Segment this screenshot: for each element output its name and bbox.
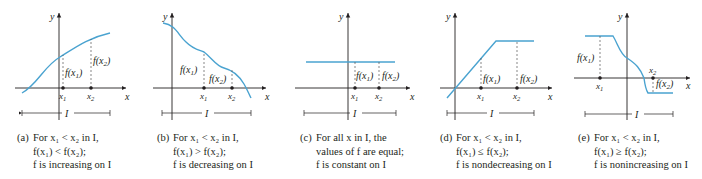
f-x2-label: f(x2) — [209, 73, 227, 86]
x2-label: x2 — [227, 91, 236, 102]
svg-text:I: I — [634, 109, 639, 120]
svg-text:I: I — [352, 108, 357, 119]
nondecreasing-curve — [447, 41, 534, 98]
point-x2 — [230, 86, 234, 90]
point-x1 — [479, 86, 483, 90]
caption-b-line1: For x₁ < x₂ in I, — [173, 132, 239, 143]
caption-c-label: (c) — [300, 131, 316, 145]
caption-c: (c)For all x in I, the values of f are e… — [300, 131, 404, 172]
caption-a-line3: f is increasing on I — [17, 158, 111, 172]
y-axis-label: y — [338, 11, 344, 22]
panel-a-increasing: y x f(x1) f(x2) x1 x2 I — [15, 11, 130, 120]
f-x1-label: f(x1) — [65, 67, 83, 80]
svg-text:I: I — [204, 108, 209, 119]
interval-i: I — [447, 108, 534, 119]
x-axis-label: x — [124, 91, 130, 102]
point-x2 — [515, 86, 519, 90]
y-axis-label: y — [445, 11, 451, 22]
x2-label: x2 — [86, 91, 95, 102]
caption-d: (d)For x₁ < x₂ in I, f(x₁) ≤ f(x₂); f is… — [440, 131, 552, 172]
panel-e-nonincreasing: y x f(x1) f(x2) x1 x2 I — [574, 11, 691, 120]
x1-label: x1 — [350, 91, 358, 102]
point-x2 — [377, 86, 381, 90]
caption-a-line1: For x₁ < x₂ in I, — [33, 132, 99, 143]
caption-e-line3: f is nonincreasing on I — [578, 158, 688, 172]
caption-e-label: (e) — [578, 131, 594, 145]
panel-d-nondecreasing: y x f(x1) f(x2) x1 x2 I — [440, 11, 553, 120]
y-axis-label: y — [617, 11, 623, 22]
y-axis-label: y — [49, 11, 55, 22]
caption-b-label: (b) — [157, 131, 173, 145]
monotonic-functions-figure: y x f(x1) f(x2) x1 x2 I y x f(x1) f(x2) … — [0, 0, 702, 130]
f-x1-label: f(x1) — [180, 64, 198, 77]
caption-e-line1: For x₁ < x₂ in I, — [594, 132, 660, 143]
caption-c-line3: f is constant on I — [300, 158, 404, 172]
caption-d-line1: For x₁ < x₂ in I, — [456, 132, 522, 143]
interval-i: I — [304, 108, 396, 119]
point-x2 — [89, 86, 93, 90]
panel-c-constant: y x f(x1) f(x2) x1 x2 I — [295, 11, 415, 120]
x1-label: x1 — [476, 91, 484, 102]
f-x2-label: f(x2) — [520, 73, 538, 86]
point-x2 — [651, 76, 655, 80]
x-axis-label: x — [409, 91, 415, 102]
interval-i: I — [162, 108, 251, 119]
svg-text:I: I — [489, 108, 494, 119]
decreasing-curve — [163, 23, 251, 98]
point-x1 — [61, 86, 65, 90]
caption-d-line3: f is nondecreasing on I — [440, 158, 552, 172]
caption-a-label: (a) — [17, 131, 33, 145]
x2-label: x2 — [648, 65, 657, 76]
caption-c-line2: values of f are equal; — [300, 145, 404, 159]
caption-d-line2: f(x₁) ≤ f(x₂); — [440, 145, 552, 159]
x1-label: x1 — [58, 91, 66, 102]
point-x1 — [202, 86, 206, 90]
panel-b-decreasing: y x f(x1) f(x2) x1 x2 I — [153, 11, 270, 120]
x1-label: x1 — [199, 91, 207, 102]
interval-i: I — [585, 109, 673, 120]
caption-c-line1: For all x in I, the — [316, 132, 387, 143]
caption-a: (a)For x₁ < x₂ in I, f(x₁) < f(x₂); f is… — [17, 131, 111, 172]
x2-label: x2 — [512, 91, 521, 102]
svg-text:I: I — [64, 108, 69, 119]
caption-d-label: (d) — [440, 131, 456, 145]
caption-e-line2: f(x₁) ≥ f(x₂); — [578, 145, 688, 159]
f-x2-label: f(x2) — [656, 78, 674, 91]
caption-e: (e)For x₁ < x₂ in I, f(x₁) ≥ f(x₂); f is… — [578, 131, 688, 172]
x1-label: x1 — [595, 81, 603, 92]
point-x1 — [598, 76, 602, 80]
caption-b-line3: f is decreasing on I — [157, 158, 253, 172]
y-axis-label: y — [162, 11, 168, 22]
x2-label: x2 — [374, 91, 383, 102]
f-x1-label: f(x1) — [356, 70, 374, 83]
f-x1-label: f(x1) — [483, 73, 501, 86]
f-x2-label: f(x2) — [382, 70, 400, 83]
caption-b-line2: f(x₁) > f(x₂); — [157, 145, 253, 159]
x-axis-label: x — [547, 91, 553, 102]
f-x1-label: f(x1) — [577, 52, 595, 65]
f-x2-label: f(x2) — [93, 55, 111, 68]
x-axis-label: x — [685, 80, 691, 91]
caption-a-line2: f(x₁) < f(x₂); — [17, 145, 111, 159]
point-x1 — [353, 86, 357, 90]
caption-b: (b)For x₁ < x₂ in I, f(x₁) > f(x₂); f is… — [157, 131, 253, 172]
x-axis-label: x — [264, 91, 270, 102]
interval-i: I — [22, 108, 110, 119]
